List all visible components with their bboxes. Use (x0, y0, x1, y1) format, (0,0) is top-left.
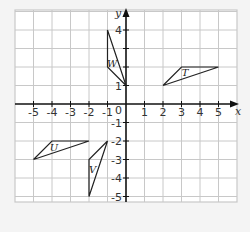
triangle-label-w: W (107, 58, 118, 69)
y-tick-label: 4 (115, 24, 122, 37)
y-tick-label: -3 (111, 154, 122, 167)
y-tick-label: -4 (111, 172, 122, 185)
x-tick-label: 4 (197, 106, 204, 119)
origin-label: 0 (115, 104, 122, 117)
x-tick-label: 2 (160, 106, 167, 119)
x-tick-label: -3 (65, 106, 76, 119)
y-tick-label: -2 (111, 135, 122, 148)
y-tick-label: -1 (111, 117, 122, 130)
x-tick-label: -2 (84, 106, 95, 119)
grid-svg: xy-5-4-3-2-11234541-1-2-3-4-50WTUV (0, 0, 250, 232)
coordinate-grid-diagram: xy-5-4-3-2-11234541-1-2-3-4-50WTUV (0, 0, 250, 232)
y-tick-label: -5 (111, 191, 122, 204)
y-tick-label: 1 (115, 80, 122, 93)
x-tick-label: 1 (141, 106, 148, 119)
x-axis-label: x (235, 105, 242, 118)
x-tick-label: -4 (47, 106, 58, 119)
y-axis-label: y (114, 7, 122, 20)
x-tick-label: 5 (215, 106, 222, 119)
x-tick-label: -5 (28, 106, 39, 119)
triangle-label-u: U (50, 142, 59, 153)
x-tick-label: 3 (178, 106, 185, 119)
